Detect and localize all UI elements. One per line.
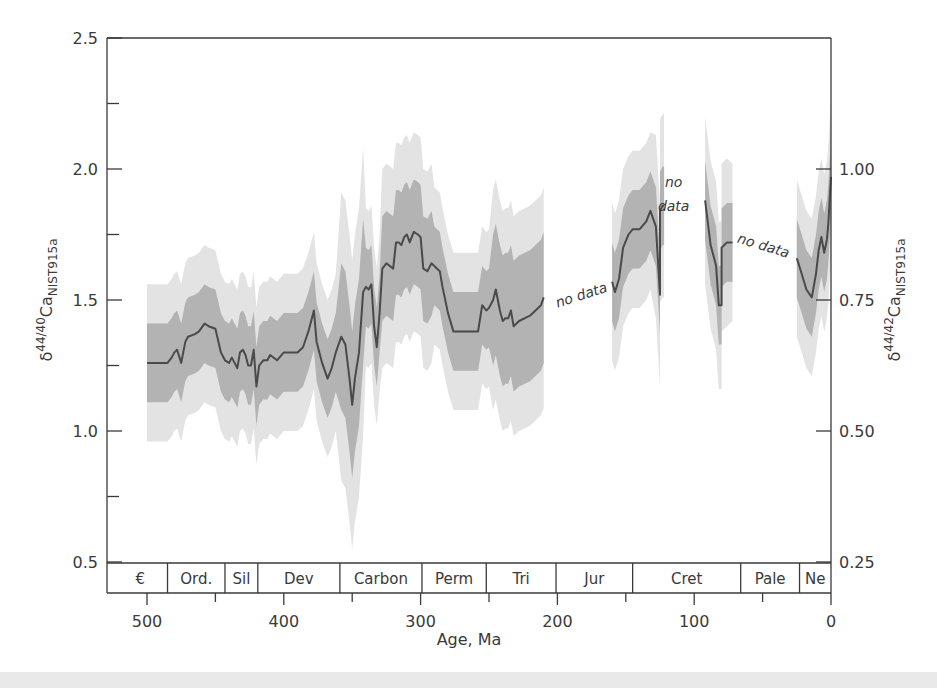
x-axis-title: Age, Ma xyxy=(437,630,502,649)
y-left-tick-label: 1.5 xyxy=(73,291,98,310)
no-data-label-paleogene: no data xyxy=(736,230,792,261)
calcium-isotope-chart: no datanodatano data 0.51.01.52.02.50.25… xyxy=(0,0,937,688)
x-tick-label: 400 xyxy=(269,612,300,631)
no-data-label-cret-data: data xyxy=(658,198,690,214)
x-tick-label: 0 xyxy=(826,612,836,631)
y-left-tick-label: 1.0 xyxy=(73,422,98,441)
y-axis-left-title: δ44/40CaNIST915a xyxy=(34,238,60,361)
y-left-tick-label: 2.5 xyxy=(73,29,98,48)
y-right-tick-label: 0.25 xyxy=(839,553,875,572)
x-tick-label: 500 xyxy=(132,612,163,631)
svg-text:δ44/42CaNIST915a: δ44/42CaNIST915a xyxy=(882,238,908,361)
period-label: € xyxy=(135,570,145,588)
y-right-tick-label: 0.50 xyxy=(839,422,875,441)
geologic-period-strip: €Ord.SilDevCarbonPermTriJurCretPaleNe xyxy=(107,563,831,593)
no-data-label-cret-no: no xyxy=(665,174,682,190)
period-label: Cret xyxy=(671,570,703,588)
period-label: Jur xyxy=(583,570,605,588)
x-tick-label: 300 xyxy=(405,612,436,631)
y-left-tick-label: 0.5 xyxy=(73,553,98,572)
svg-text:δ44/40CaNIST915a: δ44/40CaNIST915a xyxy=(34,238,60,361)
no-data-label-jurassic: no data xyxy=(553,279,609,311)
period-label: Dev xyxy=(284,570,314,588)
y-right-tick-label: 1.00 xyxy=(839,160,875,179)
uncertainty-bands xyxy=(147,98,831,549)
period-label: Tri xyxy=(511,570,529,588)
bottom-border-strip xyxy=(0,672,937,688)
y-axis-right-title: δ44/42CaNIST915a xyxy=(882,238,908,361)
period-label: Ord. xyxy=(180,570,212,588)
period-label: Carbon xyxy=(354,570,408,588)
y-left-tick-label: 2.0 xyxy=(73,160,98,179)
x-tick-label: 100 xyxy=(679,612,710,631)
period-label: Pale xyxy=(755,570,786,588)
y-right-tick-label: 0.75 xyxy=(839,291,875,310)
period-label: Ne xyxy=(805,570,825,588)
x-tick-label: 200 xyxy=(542,612,573,631)
period-label: Perm xyxy=(435,570,473,588)
annotations: no datanodatano data xyxy=(553,174,791,310)
period-label: Sil xyxy=(232,570,250,588)
